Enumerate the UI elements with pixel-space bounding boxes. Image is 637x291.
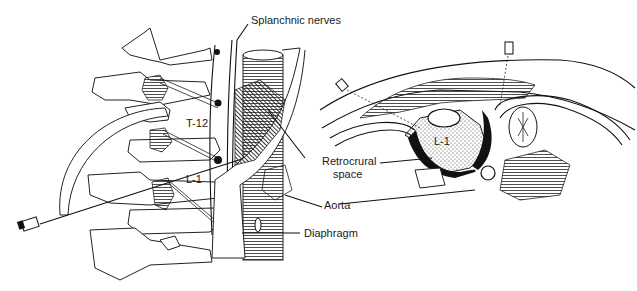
label-retrocrural-line1: Retrocrural (322, 155, 376, 167)
label-diaphragm: Diaphragm (304, 227, 358, 239)
vertebrae (88, 28, 220, 280)
label-aorta: Aorta (324, 199, 351, 211)
label-splanchnic-nerves: Splanchnic nerves (251, 14, 341, 26)
label-l1-lateral: L-1 (186, 173, 202, 185)
aorta-axial (481, 166, 495, 180)
label-l1-axial: L-1 (434, 135, 450, 147)
axial-section-view: L-1 (320, 42, 635, 204)
lateral-spine-view: T-12 L-1 (17, 24, 322, 280)
transverse-process (142, 75, 168, 100)
label-t12: T-12 (186, 117, 208, 129)
diagram-canvas: T-12 L-1 L-1 (0, 0, 637, 291)
label-retrocrural-line2: space (333, 168, 362, 180)
